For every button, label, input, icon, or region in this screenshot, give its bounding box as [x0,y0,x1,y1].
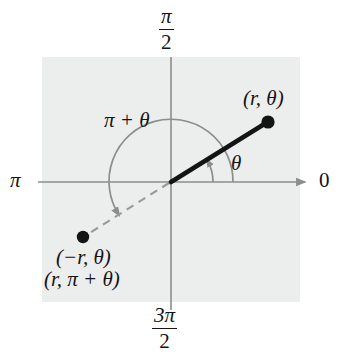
fraction-numerator: 3π [152,305,177,327]
point-label-r-pi-plus-theta: (r, π + θ) [44,269,120,290]
fraction-denominator: 2 [159,31,174,53]
axis-label-pi-over-2: π 2 [159,6,174,54]
axis-label-zero: 0 [319,170,330,191]
point-label-r-theta: (r, θ) [243,88,284,109]
fraction-numerator: π [159,6,174,28]
angle-label-theta: θ [231,153,241,174]
angle-label-pi-plus-theta: π + θ [104,110,150,131]
point-marker-negative-r-theta [77,231,89,243]
point-label-negative-r-theta: (−r, θ) [56,247,111,268]
axis-label-three-pi-over-2: 3π 2 [152,305,177,353]
axis-label-pi: π [10,170,21,191]
fraction-denominator: 2 [152,330,177,352]
point-marker-r-theta [261,115,274,128]
fraction-three-pi-over-2: 3π 2 [152,305,177,353]
fraction-pi-over-2: π 2 [159,6,174,54]
